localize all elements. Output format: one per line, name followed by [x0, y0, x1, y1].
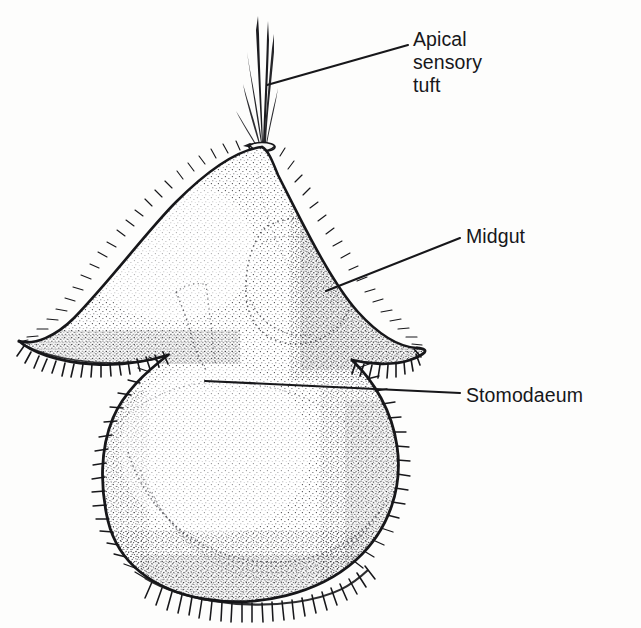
larva-figure: Apical sensory tuft Midgut Stomodaeum — [0, 0, 641, 628]
label-apical-sensory-tuft: Apical sensory tuft — [413, 28, 482, 97]
label-stomodaeum: Stomodaeum — [466, 384, 583, 407]
label-midgut: Midgut — [466, 225, 525, 248]
larva-illustration — [0, 0, 641, 628]
